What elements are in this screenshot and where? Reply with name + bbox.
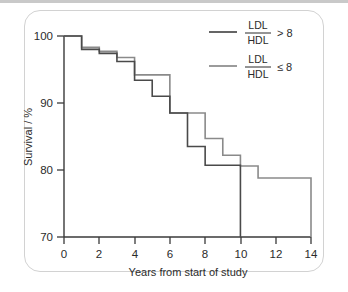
x-tick-label-14: 14 bbox=[305, 248, 318, 260]
legend-numerator-le-8: LDL bbox=[248, 53, 267, 65]
y-axis-ticks bbox=[57, 36, 64, 237]
y-tick-label-100: 100 bbox=[34, 30, 53, 42]
legend-entry-gt-8: LDL HDL > 8 bbox=[209, 19, 293, 46]
x-tick-label-6: 6 bbox=[167, 248, 173, 260]
legend-denominator-le-8: HDL bbox=[247, 68, 268, 80]
y-tick-label-80: 80 bbox=[40, 164, 53, 176]
survival-chart: 100 90 80 70 0 2 4 6 8 10 12 14 Years fr… bbox=[0, 0, 348, 292]
y-axis-tick-labels: 100 90 80 70 bbox=[34, 30, 53, 243]
chart-legend: LDL HDL > 8 LDL HDL ≤ 8 bbox=[209, 19, 293, 80]
x-axis-tick-labels: 0 2 4 6 8 10 12 14 bbox=[61, 248, 318, 260]
x-tick-label-10: 10 bbox=[235, 248, 248, 260]
x-tick-label-2: 2 bbox=[96, 248, 102, 260]
legend-numerator-gt-8: LDL bbox=[248, 19, 267, 31]
legend-denominator-gt-8: HDL bbox=[247, 34, 268, 46]
y-axis-title: Survival / % bbox=[22, 108, 34, 166]
x-tick-label-0: 0 bbox=[61, 248, 67, 260]
x-tick-label-4: 4 bbox=[132, 248, 139, 260]
y-tick-label-70: 70 bbox=[40, 231, 53, 243]
x-tick-label-12: 12 bbox=[270, 248, 283, 260]
x-tick-label-8: 8 bbox=[202, 248, 208, 260]
legend-operator-le-8: ≤ 8 bbox=[277, 61, 292, 73]
x-axis-title: Years from start of study bbox=[129, 266, 248, 278]
legend-operator-gt-8: > 8 bbox=[277, 27, 293, 39]
x-axis-ticks bbox=[64, 237, 311, 244]
y-tick-label-90: 90 bbox=[40, 97, 53, 109]
legend-entry-le-8: LDL HDL ≤ 8 bbox=[209, 53, 292, 80]
